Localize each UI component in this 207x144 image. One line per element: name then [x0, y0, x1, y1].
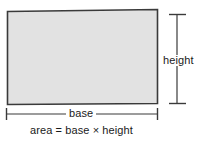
rectangle-area-diagram: base height area = base × height	[0, 0, 207, 144]
diagram-canvas	[0, 0, 207, 144]
rectangle-shape	[8, 10, 158, 105]
base-label: base	[66, 108, 96, 119]
height-label: height	[161, 55, 196, 66]
area-formula-text: area = base × height	[0, 124, 163, 136]
